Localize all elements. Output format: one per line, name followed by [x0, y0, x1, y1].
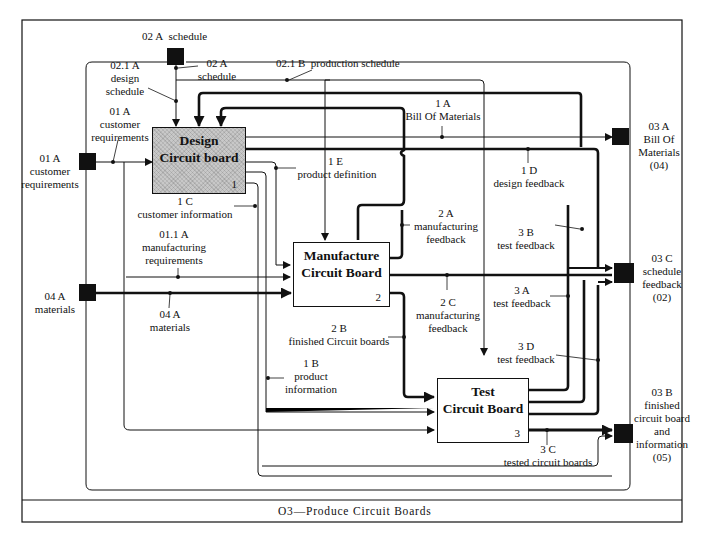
label-ref: (02) — [634, 291, 690, 304]
label-1e-product-definition: 1 E product definition — [292, 155, 382, 181]
idef0-diagram: Design Circuit board 1 Manufacture Circu… — [0, 0, 706, 536]
label-1c-customer-information: 1 C customer information — [134, 195, 236, 221]
label-name: feedback — [408, 233, 484, 246]
label-name: manufacturing — [410, 309, 486, 322]
activity-title: Design Circuit board — [153, 132, 245, 166]
label-name: customer information — [134, 208, 236, 221]
label-code: 3 B — [488, 226, 564, 239]
label-name: product — [282, 370, 340, 383]
label-code: 03 B — [628, 386, 696, 399]
label-03a-bill-of-materials-boundary: 03 A Bill Of Materials (04) — [634, 120, 684, 172]
label-01a-customer-requirements: 01 A customer requirements — [88, 105, 152, 144]
activity-number: 3 — [515, 427, 521, 439]
activity-title-line1: Test — [438, 383, 528, 400]
label-name: production schedule — [311, 57, 400, 69]
label-2a-manufacturing-feedback: 2 A manufacturing feedback — [408, 207, 484, 246]
label-name: feedback — [410, 322, 486, 335]
label-name: requirements — [88, 131, 152, 144]
label-code: 1 E — [292, 155, 382, 168]
diagram-title: O3—Produce Circuit Boards — [278, 505, 432, 517]
label-code: 02 A — [190, 57, 244, 70]
label-name: finished Circuit boards — [288, 335, 390, 348]
label-021a-design-schedule: 02.1 A design schedule — [100, 59, 150, 98]
label-name: test feedback — [484, 297, 560, 310]
label-011a-manufacturing-requirements: 01.1 A manufacturing requirements — [136, 228, 212, 267]
label-02a-schedule: 02 A schedule — [190, 57, 244, 83]
connector-02a-schedule — [167, 48, 184, 65]
label-code: 03 A — [634, 120, 684, 133]
label-code: 02.1 B — [276, 57, 305, 69]
label-ref: (04) — [634, 159, 684, 172]
label-01a-customer-requirements-boundary: 01 A customer requirements — [20, 152, 80, 191]
label-code: 02.1 A — [100, 59, 150, 72]
label-code: 01 A — [20, 152, 80, 165]
label-name: manufacturing — [408, 220, 484, 233]
label-name: and — [628, 425, 696, 438]
label-code: 3 D — [488, 340, 564, 353]
activity-title-line2: Circuit Board — [438, 400, 528, 417]
label-name: materials — [146, 321, 194, 334]
label-code: 04 A — [30, 290, 80, 303]
label-code: 2 A — [408, 207, 484, 220]
label-code: 3 A — [484, 284, 560, 297]
activity-title-line2: Circuit Board — [294, 264, 389, 281]
label-name: information — [628, 438, 696, 451]
label-code: 3 C — [498, 443, 598, 456]
label-name: circuit board — [628, 412, 696, 425]
label-name: customer — [20, 165, 80, 178]
activity-title: Manufacture Circuit Board — [294, 247, 389, 281]
label-04a-materials-boundary: 04 A materials — [30, 290, 80, 316]
activity-title-line1: Design — [153, 132, 245, 149]
label-name: schedule — [190, 70, 244, 83]
label-code: 01 A — [88, 105, 152, 118]
activity-number: 2 — [376, 291, 382, 303]
label-3c-tested-circuit-boards: 3 C tested circuit boards — [498, 443, 598, 469]
label-name: product definition — [292, 168, 382, 181]
label-code: 01.1 A — [136, 228, 212, 241]
label-02a-schedule-top: 02 A schedule — [142, 30, 207, 43]
label-code: 1 B — [282, 357, 340, 370]
label-code: 1 A — [398, 97, 488, 110]
activity-box-test[interactable]: Test Circuit Board 3 — [437, 378, 529, 443]
label-ref: (05) — [628, 451, 696, 464]
label-1b-product-information: 1 B product information — [282, 357, 340, 396]
label-code: 02 A — [142, 30, 163, 42]
label-code: 1 C — [134, 195, 236, 208]
label-code: 03 C — [634, 252, 690, 265]
label-021b-production-schedule: 02.1 B production schedule — [276, 57, 400, 70]
label-code: 2 B — [288, 322, 390, 335]
label-name: test feedback — [488, 239, 564, 252]
label-03c-schedule-feedback-boundary: 03 C schedule feedback (02) — [634, 252, 690, 304]
label-name: finished — [628, 399, 696, 412]
label-name: tested circuit boards — [498, 456, 598, 469]
connector-01a-customer-requirements — [79, 153, 96, 170]
connector-03c-schedule-feedback — [614, 263, 634, 283]
activity-title-line1: Manufacture — [294, 247, 389, 264]
activity-title-line2: Circuit board — [153, 149, 245, 166]
label-code: 04 A — [146, 308, 194, 321]
connector-04a-materials — [79, 284, 96, 301]
label-name: schedule — [169, 30, 207, 42]
label-name: materials — [30, 303, 80, 316]
label-name: Bill Of Materials — [398, 110, 488, 123]
activity-box-manufacture[interactable]: Manufacture Circuit Board 2 — [293, 242, 390, 307]
label-2c-manufacturing-feedback: 2 C manufacturing feedback — [410, 296, 486, 335]
label-1d-design-feedback: 1 D design feedback — [484, 164, 574, 190]
label-3a-test-feedback: 3 A test feedback — [484, 284, 560, 310]
label-03b-finished-boundary: 03 B finished circuit board and informat… — [628, 386, 696, 464]
activity-box-design[interactable]: Design Circuit board 1 — [152, 127, 246, 194]
label-name: schedule — [100, 85, 150, 98]
label-3d-test-feedback: 3 D test feedback — [488, 340, 564, 366]
label-name: information — [282, 383, 340, 396]
label-name: customer — [88, 118, 152, 131]
label-name: feedback — [634, 278, 690, 291]
label-3b-test-feedback: 3 B test feedback — [488, 226, 564, 252]
label-04a-materials: 04 A materials — [146, 308, 194, 334]
label-name: Bill Of — [634, 133, 684, 146]
label-1a-bill-of-materials: 1 A Bill Of Materials — [398, 97, 488, 123]
label-name: schedule — [634, 265, 690, 278]
connector-03a-bill-of-materials — [612, 128, 629, 145]
label-code: 1 D — [484, 164, 574, 177]
label-name: test feedback — [488, 353, 564, 366]
activity-number: 1 — [232, 178, 238, 190]
